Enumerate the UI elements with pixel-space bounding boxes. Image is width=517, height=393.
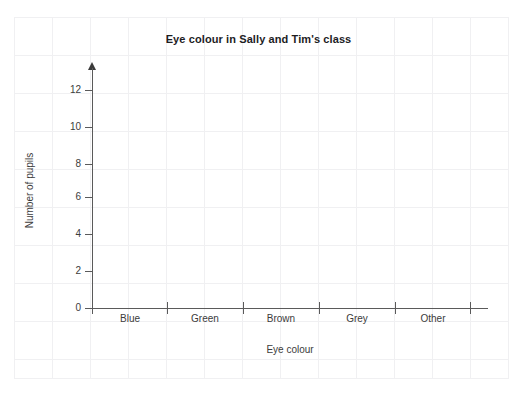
- y-tick-label: 8: [53, 158, 81, 169]
- y-tick-mark: [85, 90, 93, 91]
- y-tick-mark: [85, 127, 93, 128]
- chart-page: Eye colour in Sally and Tim's class 0 2 …: [0, 0, 517, 393]
- y-tick-label: 12: [53, 84, 81, 95]
- x-category-label-blue: Blue: [92, 313, 168, 324]
- y-tick-mark: [85, 197, 93, 198]
- x-category-label-green: Green: [167, 313, 243, 324]
- y-tick-mark: [85, 234, 93, 235]
- x-category-label-brown: Brown: [243, 313, 319, 324]
- paper-background-grid-edge: [14, 17, 509, 379]
- y-axis-title: Number of pupils: [24, 141, 35, 241]
- y-tick-label: 6: [53, 191, 81, 202]
- y-tick-label: 10: [53, 121, 81, 132]
- y-axis-line: [92, 68, 93, 309]
- x-category-label-other: Other: [395, 313, 471, 324]
- x-axis-title: Eye colour: [92, 344, 488, 355]
- y-tick-label: 0: [53, 302, 81, 313]
- chart-title: Eye colour in Sally and Tim's class: [0, 33, 517, 45]
- y-tick-label: 2: [53, 265, 81, 276]
- y-tick-mark: [85, 271, 93, 272]
- x-axis-line: [92, 308, 488, 309]
- x-category-label-grey: Grey: [319, 313, 395, 324]
- y-tick-label: 4: [53, 228, 81, 239]
- y-tick-mark: [85, 164, 93, 165]
